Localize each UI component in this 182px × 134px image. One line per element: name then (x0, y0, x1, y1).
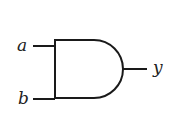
input-a-label: a (17, 35, 27, 55)
and-gate-body (55, 40, 123, 98)
and-gate-diagram: a b y (0, 0, 182, 134)
output-y-label: y (152, 57, 163, 77)
input-b-label: b (18, 88, 29, 108)
